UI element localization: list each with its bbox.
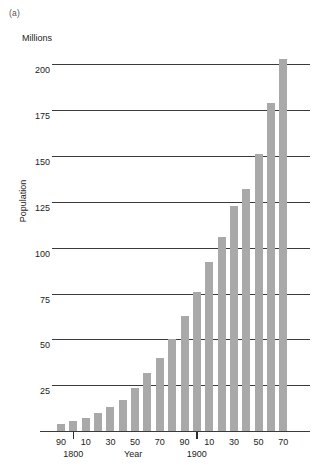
x-tick-label: 90 bbox=[48, 437, 74, 447]
y-tick-label: 200 bbox=[16, 65, 50, 75]
x-tick-major bbox=[196, 432, 197, 439]
bar bbox=[279, 59, 287, 431]
x-tick-century-label: 1800 bbox=[56, 449, 90, 459]
x-tick-label: 10 bbox=[196, 437, 222, 447]
bar bbox=[106, 407, 114, 431]
bar bbox=[131, 388, 139, 431]
bar-series bbox=[52, 46, 310, 431]
bar bbox=[193, 292, 201, 431]
x-tick-label: 10 bbox=[73, 437, 99, 447]
bar bbox=[230, 206, 238, 432]
bar bbox=[267, 103, 275, 431]
bar bbox=[57, 424, 65, 431]
x-tick-label: 70 bbox=[270, 437, 296, 447]
bar bbox=[94, 413, 102, 431]
y-tick-label: 125 bbox=[16, 203, 50, 213]
x-tick-label: 50 bbox=[246, 437, 272, 447]
y-tick-label: 175 bbox=[16, 111, 50, 121]
x-tick-major bbox=[73, 432, 74, 439]
bar bbox=[205, 262, 213, 431]
y-axis-unit-label: Millions bbox=[22, 33, 52, 43]
x-tick-label: 50 bbox=[122, 437, 148, 447]
y-axis-title: Population bbox=[18, 156, 28, 246]
x-tick-century-label: 1900 bbox=[180, 449, 214, 459]
bar bbox=[119, 400, 127, 431]
x-tick-label: 90 bbox=[172, 437, 198, 447]
x-tick-label: 70 bbox=[147, 437, 173, 447]
bar bbox=[181, 316, 189, 431]
bar bbox=[255, 154, 263, 431]
x-axis-title: Year bbox=[124, 449, 142, 459]
y-tick-label: 100 bbox=[16, 249, 50, 259]
bar bbox=[143, 373, 151, 431]
y-tick-label: 75 bbox=[16, 295, 50, 305]
y-tick-label: 150 bbox=[16, 157, 50, 167]
bar bbox=[168, 339, 176, 431]
y-tick-label: 25 bbox=[16, 386, 50, 396]
bar bbox=[218, 237, 226, 431]
bar bbox=[242, 189, 250, 431]
bar bbox=[82, 418, 90, 431]
panel-label: (a) bbox=[9, 8, 20, 18]
x-tick-label: 30 bbox=[97, 437, 123, 447]
figure-panel: (a) Millions Population Year 25507510012… bbox=[0, 0, 320, 469]
y-tick-label: 50 bbox=[16, 340, 50, 350]
x-axis-line bbox=[40, 431, 310, 432]
bar bbox=[69, 421, 77, 431]
bar bbox=[156, 358, 164, 431]
x-tick-label: 30 bbox=[221, 437, 247, 447]
